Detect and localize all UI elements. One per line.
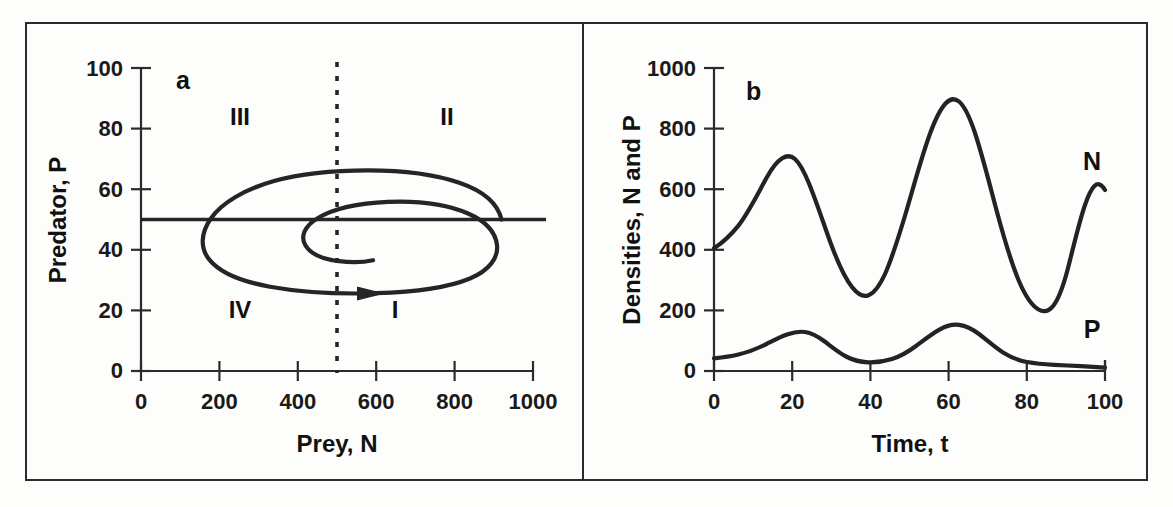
figure-root: 0 20 40 60 80 100 0 200 400 600 800 1000…	[0, 0, 1173, 507]
panel-b-xlabel-60: 60	[936, 389, 960, 414]
panel-a-letter: a	[176, 66, 191, 94]
panel-b-x-axis-title: Time, t	[872, 430, 949, 457]
panel-a-xlabel-200: 200	[201, 389, 238, 414]
panel-b-xlabel-100: 100	[1087, 389, 1124, 414]
panel-a-ylabel-40: 40	[99, 237, 123, 262]
figure-outer-border	[26, 23, 1147, 480]
panel-b-ylabel-400: 400	[659, 237, 696, 262]
panel-b-ylabel-1000: 1000	[647, 56, 696, 81]
panel-a-xlabel-800: 800	[436, 389, 473, 414]
panel-a-direction-arrow	[357, 287, 385, 301]
panel-b-label-n: N	[1083, 147, 1101, 175]
panel-a-trajectory	[203, 170, 502, 293]
panel-a-xlabel-600: 600	[358, 389, 395, 414]
panel-a-xlabel-400: 400	[279, 389, 316, 414]
panel-a-ylabel-60: 60	[99, 177, 123, 202]
panel-a-ylabel-0: 0	[111, 358, 123, 383]
panel-b-ylabel-200: 200	[659, 298, 696, 323]
panel-a-xlabel-1000: 1000	[509, 389, 558, 414]
panel-a-ylabel-20: 20	[99, 298, 123, 323]
panel-a-quadrant-iv: IV	[229, 296, 252, 323]
panel-b-xlabel-80: 80	[1015, 389, 1039, 414]
panel-b-ylabel-600: 600	[659, 177, 696, 202]
panel-a-quadrant-iii: III	[230, 103, 250, 130]
panel-a-ylabel-100: 100	[86, 56, 123, 81]
panel-b-letter: b	[746, 77, 761, 105]
panel-b-xlabel-20: 20	[780, 389, 804, 414]
panel-b-xlabel-40: 40	[858, 389, 882, 414]
panel-a-quadrant-i: I	[392, 296, 399, 323]
panel-a-quadrant-ii: II	[440, 103, 453, 130]
panel-b-ylabel-0: 0	[684, 358, 696, 383]
panel-a-xlabel-0: 0	[135, 389, 147, 414]
panel-b-series-n	[714, 99, 1105, 311]
figure-canvas: 0 20 40 60 80 100 0 200 400 600 800 1000…	[0, 0, 1173, 507]
panel-a-y-axis-title: Predator, P	[44, 157, 71, 284]
panel-a: 0 20 40 60 80 100 0 200 400 600 800 1000…	[44, 56, 557, 458]
panel-b: 0 200 400 600 800 1000 0 20 40 60 80 100…	[618, 56, 1123, 458]
panel-b-y-axis-title: Densities, N and P	[618, 115, 645, 324]
panel-b-ylabel-800: 800	[659, 116, 696, 141]
panel-b-label-p: P	[1084, 315, 1101, 343]
panel-b-xlabel-0: 0	[708, 389, 720, 414]
panel-a-x-axis-title: Prey, N	[297, 430, 378, 457]
panel-b-series-p	[714, 325, 1105, 368]
panel-a-ylabel-80: 80	[99, 116, 123, 141]
